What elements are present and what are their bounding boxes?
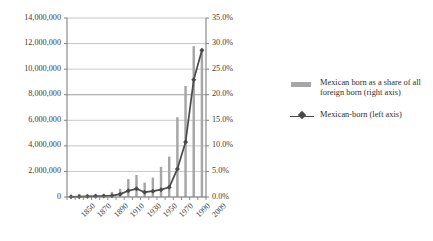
data-point-1880 [93,194,98,199]
bar-1970 [168,157,170,197]
left-axis-label-6000000: 6,000,000 [0,116,61,124]
right-axis-label-20: 20.0% [212,90,233,98]
data-point-1950 [150,189,155,194]
left-axis-label-0: 0 [0,193,61,201]
bar-1960 [160,167,162,197]
bar-swatch-icon [290,79,316,90]
left-axis-label-12000000: 12,000,000 [0,39,61,47]
left-axis-label-8000000: 8,000,000 [0,90,61,98]
right-axis-label-0: 0.0% [212,193,229,201]
left-axis-label-2000000: 2,000,000 [0,167,61,175]
chart-container: 02,000,0004,000,0006,000,0008,000,00010,… [0,0,433,241]
data-point-1940 [142,190,147,195]
data-point-1910 [118,192,123,197]
data-point-1960 [159,187,164,192]
line-diamond-icon [290,111,316,122]
bar-1930 [135,175,137,197]
legend-item-share-bars: Mexican born as a share of all foreign b… [290,78,430,99]
data-point-1930 [134,186,139,191]
right-axis-label-25: 25.0% [212,65,233,73]
legend-label-share: Mexican born as a share of all foreign b… [320,78,430,99]
bar-1920 [127,179,129,197]
legend-item-mexican-born-line: Mexican-born (left axis) [290,110,430,122]
left-axis-label-14000000: 14,000,000 [0,14,61,22]
bar-1950 [152,178,154,197]
line-series-mexican-born [71,50,202,197]
right-axis-label-5: 5.0% [212,167,229,175]
data-point-2009 [199,48,204,53]
right-axis-label-30: 30.0% [212,39,233,47]
right-axis-label-35: 35.0% [212,14,233,22]
bar-1980 [176,117,178,197]
data-point-1920 [126,188,131,193]
data-point-1990 [183,140,188,145]
bar-2000 [193,46,195,197]
data-point-1980 [175,166,180,171]
data-point-1970 [167,185,172,190]
right-axis-label-10: 10.0% [212,141,233,149]
left-axis-label-4000000: 4,000,000 [0,141,61,149]
data-point-1890 [101,194,106,199]
data-point-2000 [191,77,196,82]
legend-label-mexican-born: Mexican-born (left axis) [320,110,402,120]
chart-legend: Mexican born as a share of all foreign b… [290,78,430,133]
right-axis-label-15: 15.0% [212,116,233,124]
bar-2009 [201,49,203,197]
left-axis-label-10000000: 10,000,000 [0,65,61,73]
